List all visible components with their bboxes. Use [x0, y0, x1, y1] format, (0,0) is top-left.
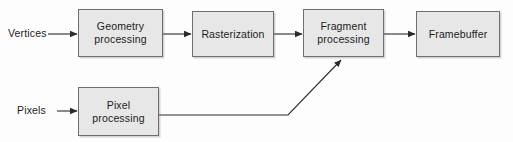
stage-box-fragment-processing: Fragment processing: [303, 9, 384, 57]
input-label-vertices: Vertices: [8, 27, 47, 40]
stage-label-pixel-processing: Pixel processing: [89, 99, 147, 125]
stage-label-geometry-processing: Geometry processing: [91, 20, 149, 46]
stage-label-rasterization: Rasterization: [198, 28, 267, 41]
stage-box-pixel-processing: Pixel processing: [78, 87, 159, 136]
stage-box-framebuffer: Framebuffer: [416, 11, 500, 57]
stage-box-rasterization: Rasterization: [192, 11, 274, 57]
connector-pixel-to-fragment: [159, 60, 341, 115]
stage-label-framebuffer: Framebuffer: [426, 28, 491, 41]
input-label-pixels: Pixels: [17, 104, 46, 117]
pipeline-diagram: Vertices Pixels Geometry processing Rast…: [0, 0, 513, 142]
stage-label-fragment-processing: Fragment processing: [314, 20, 372, 46]
stage-box-geometry-processing: Geometry processing: [78, 9, 163, 57]
